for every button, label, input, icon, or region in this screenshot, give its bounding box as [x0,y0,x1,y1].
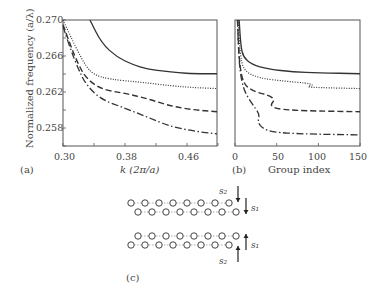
xtick-a: 0.46 [178,151,199,162]
x-axis-label-b: Group index [268,164,330,175]
s2-label-top: s₂ [219,186,227,196]
curve-dash-dot [238,20,361,135]
curve-dotted [63,20,217,89]
curve-solid [90,20,217,74]
xtick-b: 50 [272,151,284,162]
x-axis-label-a: k (2π/a) [120,164,159,175]
curve-dashed [63,25,217,112]
panel-c-label: (c) [126,272,139,283]
y-axis-label: Normalized frequency (a/λ) [24,8,35,148]
s1-label-bottom: s₁ [251,240,259,250]
xtick-a: 0.30 [54,151,75,162]
ytick: 0.266 [36,50,63,61]
curve-dotted [238,20,360,89]
ytick: 0.262 [36,86,63,97]
curves [63,20,360,135]
xtick-b: 100 [308,151,326,162]
curve-solid [239,20,360,74]
xtick-a: 0.38 [116,151,137,162]
s1-label-top: s₁ [251,203,259,213]
ytick: 0.258 [36,122,63,133]
s2-label-bottom: s₂ [219,256,227,266]
xtick-b: 150 [349,151,367,162]
figure-canvas [0,0,383,295]
panel-b-frame [235,20,360,146]
panel-a-frame [63,20,217,146]
panel-a-label: (a) [20,164,34,175]
ticks [63,20,360,146]
curve-dash-dot [63,26,217,133]
xtick-b: 0 [232,151,238,162]
panel-b-label: (b) [232,164,246,175]
ytick: 0.270 [36,14,63,25]
waveguide-diagram [128,186,249,262]
